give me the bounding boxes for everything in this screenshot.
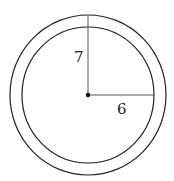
inner-radius-label: 6: [117, 100, 127, 118]
center-point: [86, 93, 90, 97]
outer-radius-label: 7: [74, 48, 84, 66]
concentric-circles-diagram: 7 6: [0, 0, 174, 181]
